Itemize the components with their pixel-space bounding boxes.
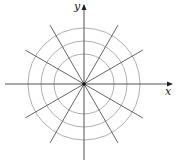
axes [5,4,173,160]
x-axis-label: x [165,86,171,97]
y-axis-arrowhead-icon [82,4,87,10]
origin-point [82,82,86,86]
polar-grid-diagram [0,0,179,163]
y-axis-label: y [74,1,80,12]
